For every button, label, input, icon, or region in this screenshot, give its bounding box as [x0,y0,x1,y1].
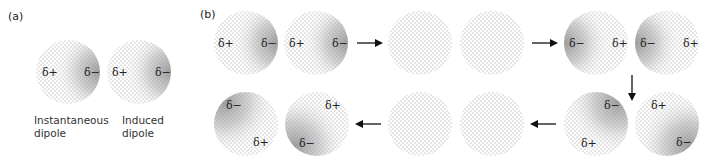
charge-negative: δ− [604,99,620,112]
panel-b-step-2 [388,11,524,75]
dipole-diagram: (a) (b) δ+ δ− Instantaneous dipole δ+ δ−… [0,0,724,163]
charge-negative: δ− [84,66,100,79]
charge-positive: δ+ [42,66,58,79]
charge-positive: δ+ [651,99,667,112]
atom-electron-cloud [388,11,452,75]
charge-negative: δ− [640,37,656,50]
charge-positive: δ+ [253,136,269,149]
charge-negative: δ− [569,37,585,50]
charge-positive: δ+ [325,99,341,112]
charge-negative: δ− [299,137,315,150]
atom-electron-cloud [388,92,452,156]
charge-negative: δ− [155,66,171,79]
panel-a-atom-induced: δ+ δ− [107,40,171,104]
panel-b-label: (b) [200,8,216,21]
panel-b-step-3: δ− δ+ δ− δ+ [564,11,699,75]
atom-electron-cloud [460,92,524,156]
panel-a-label: (a) [8,10,23,23]
charge-positive: δ+ [581,137,597,150]
caption-induced-line2: dipole [122,127,154,139]
charge-negative: δ− [226,99,242,112]
caption-induced-line1: Induced [122,114,164,126]
charge-negative: δ− [261,37,277,50]
charge-positive: δ+ [683,37,699,50]
charge-negative: δ− [332,37,348,50]
charge-positive: δ+ [112,66,128,79]
panel-b-step-4: δ− δ+ δ+ δ− [564,92,699,156]
charge-positive: δ+ [612,37,628,50]
atom-electron-cloud [460,11,524,75]
panel-b-step-5 [388,92,524,156]
caption-instantaneous-line1: Instantaneous [34,114,109,126]
caption-instantaneous-line2: dipole [34,127,66,139]
panel-a-atom-instantaneous: δ+ δ− [36,40,100,104]
panel-b-step-1: δ+ δ− δ+ δ− [214,11,348,75]
charge-positive: δ+ [218,37,234,50]
charge-negative: δ− [676,136,692,149]
charge-positive: δ+ [289,37,305,50]
panel-b-step-6: δ− δ+ δ+ δ− [214,92,349,156]
